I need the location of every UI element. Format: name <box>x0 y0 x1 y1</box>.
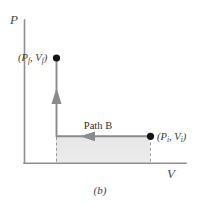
initial-state-label: (Pi, Vi) <box>157 131 187 144</box>
pv-diagram-canvas: P V (Pf, Vf) (Pi, Vi) Path B (b) <box>0 0 203 203</box>
pv-diagram-figure: P V (Pf, Vf) (Pi, Vi) Path B (b) <box>0 0 203 203</box>
initial-state-dot <box>147 133 154 140</box>
final-state-label: (Pf, Vf) <box>18 52 48 65</box>
p-axis-label: P <box>9 12 18 27</box>
work-area-shading <box>56 136 150 163</box>
path-b-label: Path B <box>84 120 112 131</box>
figure-caption: (b) <box>94 184 107 197</box>
v-axis-label: V <box>167 166 177 181</box>
path-arrowhead-up-icon <box>52 88 62 104</box>
final-state-dot <box>53 54 60 61</box>
